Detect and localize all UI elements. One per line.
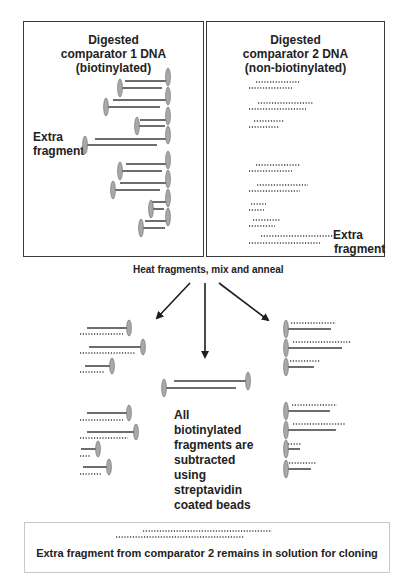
biotin-bead-icon [127, 320, 132, 336]
biotin-bead-icon [162, 379, 167, 397]
biotin-bead-icon [284, 339, 289, 357]
biotin-bead-icon [166, 189, 171, 207]
arrow-right-icon [219, 283, 268, 320]
biotin-bead-icon [284, 320, 289, 338]
arrow-left-icon [157, 283, 190, 318]
biotin-bead-icon [83, 136, 88, 154]
biotin-bead-icon [166, 126, 171, 144]
biotin-bead-icon [107, 459, 112, 475]
subtractive-hybridization-diagram: Digested comparator 1 DNA (biotinylated)… [0, 0, 406, 585]
biotin-bead-icon [166, 208, 171, 226]
biotin-homoduplex-group [162, 372, 251, 397]
biotin-bead-icon [135, 117, 140, 135]
biotin-bead-icon [134, 424, 139, 440]
hybrid-duplexes-right-group [284, 320, 351, 478]
biotin-bead-icon [166, 87, 171, 105]
biotin-bead-icon [166, 68, 171, 86]
hybrid-duplexes-left-group [80, 320, 145, 475]
biotin-bead-icon [284, 440, 289, 458]
biotin-bead-icon [104, 98, 109, 116]
biotin-bead-icon [166, 151, 171, 169]
biotin-bead-icon [111, 181, 116, 199]
biotin-bead-icon [118, 162, 123, 180]
non-biotinylated-fragments-group [249, 82, 333, 243]
biotin-bead-icon [118, 79, 123, 97]
biotinylated-fragments-group [83, 68, 171, 237]
biotin-bead-icon [141, 339, 146, 355]
biotin-bead-icon [284, 421, 289, 439]
biotin-bead-icon [284, 460, 289, 478]
biotin-bead-icon [246, 372, 251, 390]
biotin-bead-icon [166, 107, 171, 125]
biotin-bead-icon [127, 405, 132, 421]
biotin-bead-icon [96, 441, 101, 457]
biotin-bead-icon [166, 170, 171, 188]
biotin-bead-icon [110, 358, 115, 374]
anneal-arrows-group [157, 283, 268, 357]
biotin-bead-icon [284, 402, 289, 420]
fragment-drawing [0, 0, 406, 585]
extra-fragment-result-group [116, 531, 272, 537]
biotin-bead-icon [139, 219, 144, 237]
biotin-bead-icon [284, 358, 289, 376]
biotin-bead-icon [149, 200, 154, 218]
